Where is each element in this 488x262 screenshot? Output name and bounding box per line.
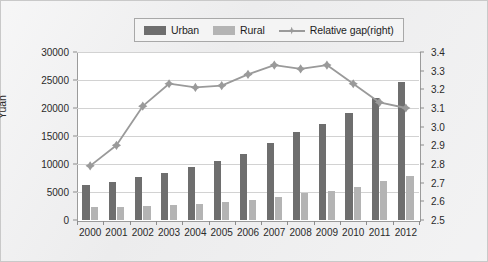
x-tick-label: 2010 — [342, 227, 364, 238]
y2-tick-label: 2.5 — [431, 215, 445, 226]
y2-tick-label: 2.6 — [431, 196, 445, 207]
x-tickmark — [156, 221, 157, 225]
x-tick-label: 2004 — [184, 227, 206, 238]
x-tick-label: 2005 — [211, 227, 233, 238]
y-axis-title: Yuan — [0, 95, 8, 119]
x-tick-label: 2006 — [237, 227, 259, 238]
y2-tickmark — [420, 108, 424, 109]
y2-tickmark — [420, 52, 424, 53]
x-tickmark — [340, 221, 341, 225]
y2-tick-label: 3.2 — [431, 84, 445, 95]
y2-tick-label: 2.9 — [431, 140, 445, 151]
bar-rural — [301, 193, 308, 220]
y-tick-label: 10000 — [41, 159, 69, 170]
x-tickmark — [209, 221, 210, 225]
y-tickmark — [73, 52, 77, 53]
plot-area — [77, 52, 421, 222]
bar-urban — [398, 82, 405, 220]
x-tickmark — [314, 221, 315, 225]
bar-urban — [161, 173, 168, 220]
x-tick-label: 2008 — [289, 227, 311, 238]
y-tick-label: 15000 — [41, 131, 69, 142]
y2-tickmark — [420, 89, 424, 90]
legend-item-relative-gap: Relative gap(right) — [279, 24, 394, 36]
gridline — [77, 192, 419, 193]
x-tick-label: 2012 — [395, 227, 417, 238]
x-tick-label: 2001 — [105, 227, 127, 238]
chart-figure: Urban Rural Relative gap(right) Yuan 050… — [0, 0, 488, 262]
bar-rural — [249, 200, 256, 220]
y-tick-label: 25000 — [41, 75, 69, 86]
bar-urban — [109, 182, 116, 220]
secondary-y-axis — [420, 52, 421, 221]
x-tickmark — [130, 221, 131, 225]
bar-rural — [143, 206, 150, 220]
y2-tickmark — [420, 70, 424, 71]
relative-gap-line-marker-icon — [279, 26, 305, 35]
legend-label-rural: Rural — [240, 24, 265, 36]
rural-swatch-icon — [213, 26, 235, 35]
bar-urban — [267, 143, 274, 220]
bar-urban — [293, 132, 300, 220]
x-tick-label: 2003 — [158, 227, 180, 238]
bar-urban — [372, 98, 379, 220]
bar-rural — [380, 181, 387, 220]
legend-item-urban: Urban — [144, 24, 199, 36]
y-tickmark — [73, 108, 77, 109]
bar-rural — [275, 197, 282, 220]
y2-tick-label: 3.4 — [431, 47, 445, 58]
chart-legend: Urban Rural Relative gap(right) — [134, 18, 404, 42]
y-tick-label: 20000 — [41, 103, 69, 114]
x-tick-label: 2000 — [79, 227, 101, 238]
y-tickmark — [73, 192, 77, 193]
y2-tick-label: 3.0 — [431, 121, 445, 132]
bar-urban — [345, 113, 352, 220]
x-tickmark — [393, 221, 394, 225]
x-tick-label: 2011 — [369, 227, 391, 238]
y2-tick-label: 2.7 — [431, 177, 445, 188]
bar-rural — [170, 205, 177, 220]
y2-tick-label: 3.1 — [431, 103, 445, 114]
y2-tickmark — [420, 164, 424, 165]
x-tickmark — [103, 221, 104, 225]
bar-rural — [406, 176, 413, 220]
legend-label-urban: Urban — [171, 24, 199, 36]
y2-tickmark — [420, 145, 424, 146]
legend-item-rural: Rural — [213, 24, 265, 36]
y-tick-label: 5000 — [47, 187, 69, 198]
y-tickmark — [73, 136, 77, 137]
y-tick-label: 30000 — [41, 47, 69, 58]
bar-urban — [319, 124, 326, 220]
bar-urban — [135, 177, 142, 220]
y2-tick-label: 2.8 — [431, 159, 445, 170]
bar-urban — [240, 154, 247, 220]
bar-rural — [222, 202, 229, 220]
bar-urban — [82, 185, 89, 220]
gridline — [77, 136, 419, 137]
x-tick-label: 2009 — [316, 227, 338, 238]
bar-rural — [117, 207, 124, 220]
legend-label-relative-gap: Relative gap(right) — [310, 24, 394, 36]
gridline — [77, 52, 419, 53]
gridline — [77, 108, 419, 109]
x-tickmark — [182, 221, 183, 225]
x-tick-label: 2007 — [263, 227, 285, 238]
x-tickmark — [77, 221, 78, 225]
x-tick-label: 2002 — [132, 227, 154, 238]
bar-rural — [196, 204, 203, 220]
gridline — [77, 164, 419, 165]
y2-tick-label: 3.3 — [431, 65, 445, 76]
y-tickmark — [73, 80, 77, 81]
x-tickmark — [287, 221, 288, 225]
y2-tickmark — [420, 126, 424, 127]
x-tickmark — [366, 221, 367, 225]
y2-tickmark — [420, 220, 424, 221]
y-tickmark — [73, 164, 77, 165]
urban-swatch-icon — [144, 26, 166, 35]
bar-urban — [214, 161, 221, 220]
y-tick-label: 0 — [63, 215, 69, 226]
y2-tickmark — [420, 182, 424, 183]
bar-urban — [188, 167, 195, 220]
x-tickmark — [419, 221, 420, 225]
bar-rural — [91, 207, 98, 220]
